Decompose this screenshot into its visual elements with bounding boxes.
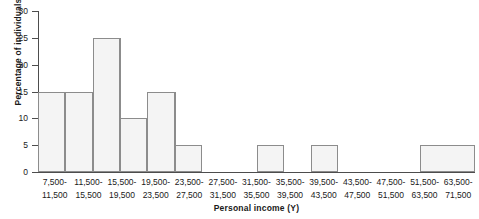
x-tick-label-lower-bound: 35,500- <box>276 177 305 187</box>
bin-separator-5 <box>175 92 176 173</box>
x-tick-label-lower-bound: 31,500- <box>242 177 271 187</box>
x-tick-label-upper-bound: 71,500 <box>441 189 475 202</box>
histogram-chart: Percentage of individuals 051015202530 7… <box>0 0 479 219</box>
bar-11,500-15,500 <box>65 92 92 173</box>
x-tick-label-lower-bound: 63,500- <box>444 177 473 187</box>
x-tick-label-15,500-19,500: 15,500-19,500 <box>105 176 139 201</box>
bar-39,500-43,500 <box>257 145 284 172</box>
x-tick-label-19,500-23,500: 19,500-23,500 <box>139 176 173 201</box>
x-tick-label-upper-bound: 15,500 <box>72 189 106 202</box>
x-tick-label-35,500-39,500: 35,500-39,500 <box>273 176 307 201</box>
x-tick-label-upper-bound: 35,500 <box>240 189 274 202</box>
bin-separator-3 <box>120 38 121 172</box>
bin-separator-1 <box>65 92 66 173</box>
y-tick-label-30: 30 <box>4 7 28 16</box>
x-tick-label-upper-bound: 31,500 <box>206 189 240 202</box>
bar-7,500-11,500 <box>38 92 65 173</box>
x-tick-label-23,500-27,500: 23,500-27,500 <box>172 176 206 201</box>
x-tick-label-lower-bound: 47,500- <box>377 177 406 187</box>
x-axis-title: Personal income (Y) <box>38 203 475 213</box>
x-tick-label-31,500-35,500: 31,500-35,500 <box>240 176 274 201</box>
x-tick-label-27,500-31,500: 27,500-31,500 <box>206 176 240 201</box>
y-tick-label-20: 20 <box>4 61 28 70</box>
x-tick-label-lower-bound: 23,500- <box>175 177 204 187</box>
x-tick-label-upper-bound: 43,500 <box>307 189 341 202</box>
bar-47,500-51,500 <box>311 145 338 172</box>
x-tick-label-upper-bound: 11,500 <box>38 189 72 202</box>
x-tick-label-upper-bound: 51,500 <box>374 189 408 202</box>
bar-63,500-71,500 <box>420 145 475 172</box>
y-tick-label-5: 5 <box>4 141 28 150</box>
x-tick-label-lower-bound: 51,500- <box>410 177 439 187</box>
x-tick-label-39,500-43,500: 39,500-43,500 <box>307 176 341 201</box>
x-tick-label-upper-bound: 47,500 <box>341 189 375 202</box>
x-tick-label-lower-bound: 19,500- <box>141 177 170 187</box>
y-tick-0 <box>32 172 38 173</box>
y-tick-label-15: 15 <box>4 88 28 97</box>
x-tick-label-upper-bound: 63,500 <box>408 189 442 202</box>
bar-19,500-23,500 <box>120 118 147 172</box>
x-tick-label-lower-bound: 43,500- <box>343 177 372 187</box>
y-tick-label-25: 25 <box>4 34 28 43</box>
bar-27,500-31,500 <box>175 145 202 172</box>
x-tick-label-upper-bound: 39,500 <box>273 189 307 202</box>
x-tick-label-lower-bound: 11,500- <box>74 177 102 187</box>
x-tick-label-lower-bound: 39,500- <box>309 177 338 187</box>
bin-separator-2 <box>93 38 94 172</box>
x-tick-label-11,500-15,500: 11,500-15,500 <box>72 176 106 201</box>
x-tick-label-7,500-11,500: 7,500-11,500 <box>38 176 72 201</box>
x-tick-label-43,500-47,500: 43,500-47,500 <box>341 176 375 201</box>
y-tick-label-0: 0 <box>4 168 28 177</box>
bin-separator-4 <box>147 92 148 173</box>
x-tick-label-47,500-51,500: 47,500-51,500 <box>374 176 408 201</box>
x-axis-tick-labels: 7,500-11,50011,500-15,50015,500-19,50019… <box>38 176 475 202</box>
x-tick-label-51,500-63,500: 51,500-63,500 <box>408 176 442 201</box>
bar-15,500-19,500 <box>93 38 120 172</box>
x-tick-label-63,500-71,500: 63,500-71,500 <box>441 176 475 201</box>
x-tick-label-lower-bound: 7,500- <box>43 177 67 187</box>
x-tick-label-lower-bound: 27,500- <box>208 177 237 187</box>
x-tick-label-upper-bound: 27,500 <box>172 189 206 202</box>
x-axis-line <box>38 172 475 173</box>
bar-23,500-27,500 <box>147 92 174 173</box>
x-tick-label-lower-bound: 15,500- <box>108 177 137 187</box>
x-tick-label-upper-bound: 23,500 <box>139 189 173 202</box>
y-tick-label-10: 10 <box>4 114 28 123</box>
x-tick-label-upper-bound: 19,500 <box>105 189 139 202</box>
plot-area <box>38 11 475 172</box>
